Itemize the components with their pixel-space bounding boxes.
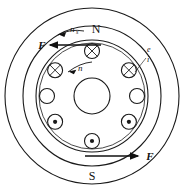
conductor-right	[130, 89, 145, 104]
conductor-upper-left	[48, 63, 63, 78]
emf-current-leader	[135, 58, 146, 72]
conductor-body	[130, 89, 145, 104]
pole-north-label: N	[92, 22, 101, 36]
conductor-left	[40, 89, 55, 104]
force-bottom-label: F	[145, 150, 154, 162]
dot-icon	[127, 120, 131, 124]
force-top-label: F	[37, 39, 46, 51]
sync-speed-subscript: s	[76, 29, 79, 35]
pole-south-label: S	[89, 169, 96, 183]
sync-speed-label: n	[70, 24, 75, 34]
shaft-hole-circle	[74, 78, 110, 114]
conductor-body	[40, 89, 55, 104]
conductor-bottom	[85, 134, 100, 149]
conductor-top	[85, 44, 100, 59]
conductor-lower-right	[121, 114, 136, 129]
dot-icon	[90, 139, 94, 143]
induction-motor-figure: N S F F n s n e i	[0, 0, 184, 193]
leader-line	[135, 58, 146, 72]
conductor-lower-left	[48, 114, 63, 129]
force-bottom-arrowhead	[130, 152, 140, 160]
emf-label: e	[147, 45, 151, 54]
dot-icon	[53, 120, 57, 124]
current-label: i	[147, 55, 149, 64]
force-arrow-bottom	[85, 152, 140, 160]
force-top-arrowhead	[49, 41, 59, 49]
rotor-speed-label: n	[78, 63, 83, 73]
conductor-upper-right	[121, 63, 136, 78]
motor-cross-section-svg: N S F F n s n e i	[0, 0, 184, 193]
